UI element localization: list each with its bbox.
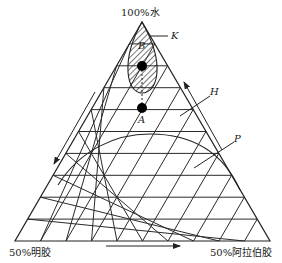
vertex-label-bottom-right: 50%阿拉伯胶 bbox=[210, 244, 272, 259]
vertex-label-bottom-left: 50%明胶 bbox=[9, 244, 51, 259]
label-a: A bbox=[138, 114, 145, 125]
label-p: P bbox=[234, 133, 241, 144]
label-h: H bbox=[210, 86, 219, 97]
point-b-dot bbox=[137, 61, 147, 71]
vertex-label-top: 100%水 bbox=[121, 4, 160, 19]
point-a-dot bbox=[137, 103, 147, 113]
label-b: B bbox=[138, 40, 145, 51]
label-k: K bbox=[171, 30, 178, 41]
